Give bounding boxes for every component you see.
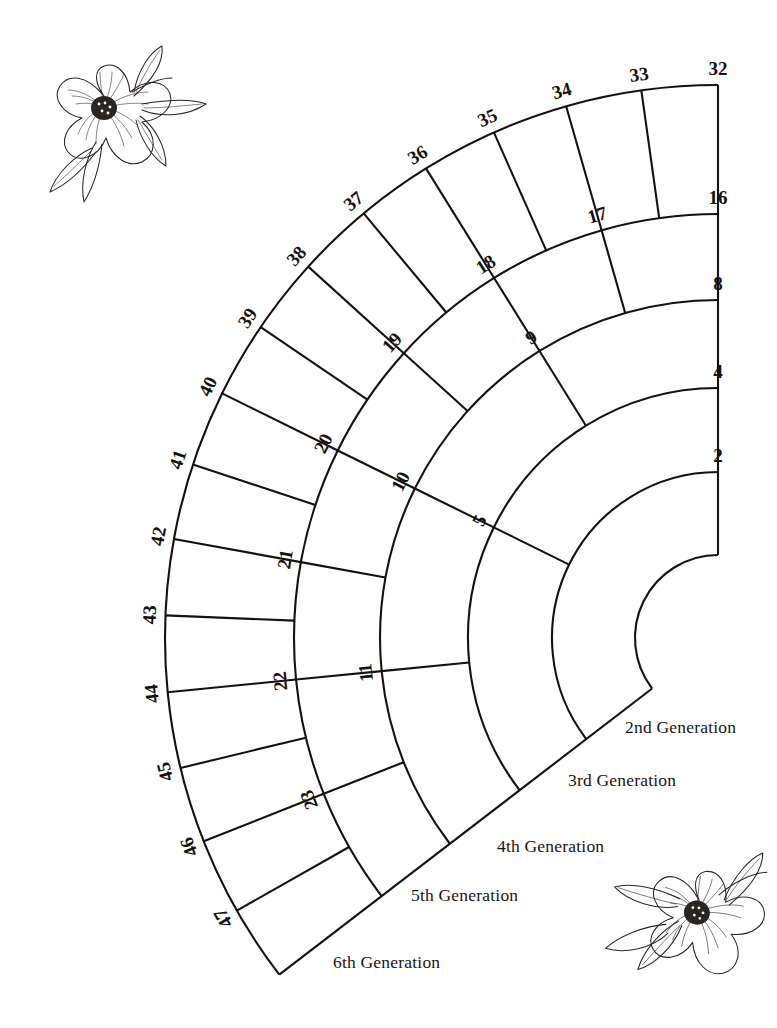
cell-number: 36 <box>404 141 431 169</box>
cell-number: 40 <box>194 373 221 399</box>
cell-number: 4 <box>713 361 723 382</box>
cell-number: 8 <box>713 273 723 294</box>
cell-number: 34 <box>550 78 575 104</box>
cell-number: 47 <box>209 905 237 932</box>
generation-label: 2nd Generation <box>625 717 736 737</box>
cell-number: 39 <box>233 304 261 332</box>
cell-number: 11 <box>354 663 377 683</box>
cell-number: 41 <box>165 447 191 472</box>
cell-number: 33 <box>628 63 650 86</box>
generation-label: 4th Generation <box>497 836 604 856</box>
cell-number: 16 <box>709 187 728 208</box>
generation-label: 3rd Generation <box>568 770 676 790</box>
cell-number: 21 <box>273 548 297 570</box>
cell-number: 42 <box>146 525 170 547</box>
generation-label: 6th Generation <box>333 952 440 972</box>
flower-top-left-icon <box>50 46 206 202</box>
cell-number: 35 <box>474 104 500 131</box>
cell-number: 32 <box>709 58 728 79</box>
fan-chart-canvas: 2458910111617181920212223323334353637383… <box>0 0 777 1028</box>
fan-diagram <box>165 85 718 975</box>
cell-number: 46 <box>175 834 202 859</box>
cell-number: 45 <box>152 760 177 783</box>
cell-number: 22 <box>269 671 292 692</box>
cell-number: 38 <box>282 242 310 270</box>
cell-number: 44 <box>140 683 163 704</box>
cell-number: 2 <box>713 445 723 466</box>
cell-number: 43 <box>138 605 160 625</box>
cell-number: 37 <box>339 187 367 216</box>
fan-background <box>165 85 718 975</box>
flower-bottom-right-icon <box>599 824 777 993</box>
generation-label: 5th Generation <box>411 885 518 905</box>
